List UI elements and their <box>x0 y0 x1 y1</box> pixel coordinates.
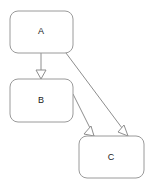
diagram-canvas: A B C <box>0 0 149 185</box>
edge-b-to-c[interactable] <box>73 94 94 136</box>
node-a-label: A <box>38 26 44 36</box>
node-b-label: B <box>38 95 44 105</box>
edge-a-to-b[interactable] <box>36 53 46 79</box>
node-a[interactable]: A <box>10 11 73 53</box>
node-c-label: C <box>108 152 115 162</box>
diagram-svg: A B C <box>0 0 149 185</box>
node-b[interactable]: B <box>10 79 73 122</box>
generalization-arrowhead-icon <box>118 125 128 136</box>
generalization-arrowhead-icon <box>36 70 46 79</box>
generalization-arrowhead-icon <box>84 126 94 136</box>
node-c[interactable]: C <box>79 136 144 178</box>
